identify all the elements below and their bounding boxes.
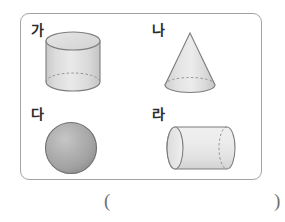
answer-close-paren: ) — [274, 191, 280, 210]
sphere-icon — [41, 118, 101, 178]
cylinder-horizontal-icon — [165, 122, 241, 174]
answer-open-paren: ( — [104, 191, 110, 210]
shape-label-ra: 라 — [152, 107, 165, 121]
cone-icon — [160, 28, 220, 96]
answer-row: ( ) — [0, 188, 285, 218]
cylinder-vertical-icon — [40, 30, 106, 100]
worksheet-page: 가 나 다 라 — [0, 0, 285, 222]
